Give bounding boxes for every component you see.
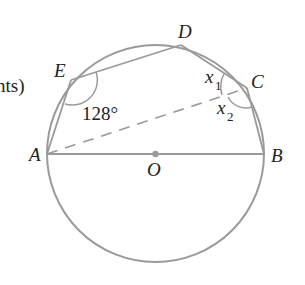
label-d: D <box>177 21 192 42</box>
label-b: B <box>271 145 283 166</box>
label-a: A <box>27 144 41 165</box>
svg-text:x: x <box>204 66 214 87</box>
angle-label-e: 128° <box>82 103 118 124</box>
svg-text:1: 1 <box>215 78 222 93</box>
chord-ed <box>71 45 181 80</box>
fragment-text: nts) <box>0 75 25 97</box>
chord-dc <box>181 45 247 88</box>
svg-text:2: 2 <box>227 109 234 124</box>
center-point-o <box>152 151 158 157</box>
label-c: C <box>251 71 264 92</box>
chord-ae <box>47 80 71 154</box>
circle-diagram: nts) E D C A B O 128° x 1 x 2 <box>0 0 305 285</box>
label-o: O <box>147 159 161 180</box>
label-e: E <box>53 60 66 81</box>
svg-text:x: x <box>216 97 226 118</box>
chord-cb <box>247 88 264 154</box>
